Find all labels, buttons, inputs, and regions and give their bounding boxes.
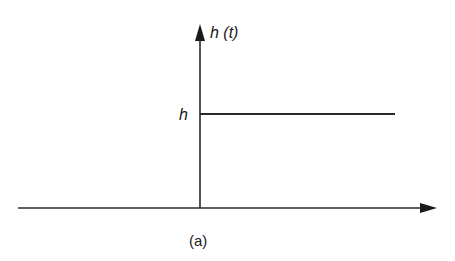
y-axis-label: h (t) bbox=[210, 24, 238, 41]
step-function-diagram: h (t) h (a) bbox=[0, 0, 455, 261]
value-axis-arrow-icon bbox=[195, 24, 205, 41]
level-label: h bbox=[179, 106, 188, 123]
time-axis-arrow-icon bbox=[420, 203, 437, 213]
figure-caption: (a) bbox=[189, 232, 207, 249]
